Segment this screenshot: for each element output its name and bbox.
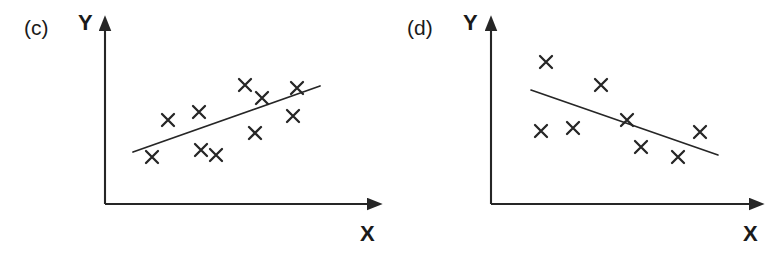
data-point-marker xyxy=(287,110,299,122)
data-point-marker xyxy=(210,149,222,161)
data-point-marker xyxy=(249,127,261,139)
data-points-c xyxy=(146,79,303,163)
data-point-marker xyxy=(239,79,251,91)
data-point-marker xyxy=(540,56,552,68)
data-point-marker xyxy=(567,122,579,134)
scatter-panel-d: (d) Y X xyxy=(387,0,774,264)
data-point-marker xyxy=(595,79,607,91)
data-point-marker xyxy=(694,126,706,138)
data-point-marker xyxy=(635,141,647,153)
plot-area-d xyxy=(387,0,774,264)
data-point-marker xyxy=(195,144,207,156)
axis-lines-d xyxy=(491,30,750,204)
data-point-marker xyxy=(291,82,303,94)
axis-lines-c xyxy=(105,30,368,204)
trend-line-c xyxy=(133,86,320,152)
data-point-marker xyxy=(672,151,684,163)
data-point-marker xyxy=(146,151,158,163)
scatter-panel-c: (c) Y X xyxy=(0,0,387,264)
plot-area-c xyxy=(0,0,387,264)
data-point-marker xyxy=(162,114,174,126)
data-point-marker xyxy=(193,106,205,118)
data-point-marker xyxy=(256,92,268,104)
figure-container: (c) Y X xyxy=(0,0,774,264)
data-points-d xyxy=(535,56,706,163)
data-point-marker xyxy=(535,125,547,137)
